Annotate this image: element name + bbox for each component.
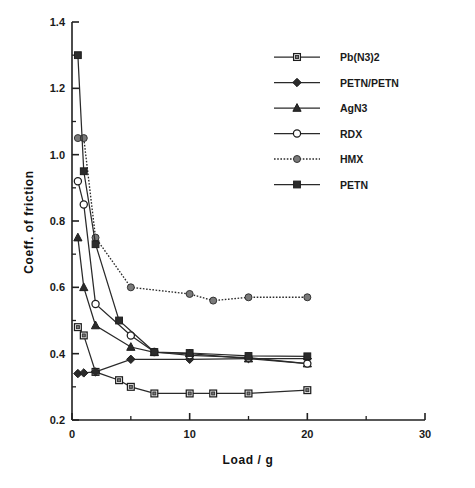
marker-open-square-core	[118, 379, 121, 382]
marker-filled-square	[116, 317, 123, 324]
marker-filled-circle	[294, 156, 301, 163]
x-tick-label: 20	[301, 428, 313, 440]
marker-filled-triangle	[91, 321, 99, 329]
y-tick-label: 1.4	[50, 16, 66, 28]
legend-entry-pb-n3-2[interactable]: Pb(N3)2	[274, 51, 380, 63]
x-tick-label: 10	[184, 428, 196, 440]
marker-open-circle	[80, 201, 87, 208]
marker-open-square-core	[212, 392, 215, 395]
marker-open-square-core	[129, 385, 132, 388]
series-line-petn	[78, 55, 307, 356]
marker-open-square-core	[76, 326, 79, 329]
marker-filled-circle	[186, 290, 193, 297]
x-tick-label: 0	[69, 428, 75, 440]
y-tick-label: 1.2	[50, 82, 65, 94]
marker-filled-circle	[210, 297, 217, 304]
marker-filled-diamond	[80, 369, 88, 377]
marker-open-square-core	[247, 392, 250, 395]
legend-label: Pb(N3)2	[340, 51, 380, 63]
legend-label: PETN	[340, 179, 368, 191]
y-tick-label: 0.6	[50, 281, 65, 293]
marker-filled-diamond	[127, 355, 135, 363]
marker-filled-circle	[245, 294, 252, 301]
x-axis-title: Load / g	[223, 453, 274, 467]
marker-filled-square	[304, 353, 311, 360]
y-axis-title: Coeff. of friction	[22, 170, 36, 273]
chart-legend: Pb(N3)2PETN/PETNAgN3RDXHMXPETN	[274, 51, 399, 191]
marker-open-circle	[92, 300, 99, 307]
legend-entry-petn-petn[interactable]: PETN/PETN	[274, 77, 399, 89]
marker-open-square-core	[296, 56, 299, 59]
marker-filled-triangle	[127, 343, 135, 351]
friction-vs-load-line-chart: 0.20.40.60.81.01.21.40102030 Load / g Co…	[0, 0, 475, 488]
marker-filled-triangle	[74, 233, 82, 241]
marker-filled-circle	[304, 294, 311, 301]
marker-filled-square	[80, 168, 87, 175]
legend-label: PETN/PETN	[340, 77, 399, 89]
legend-label: RDX	[340, 128, 362, 140]
y-tick-label: 0.8	[50, 215, 65, 227]
y-tick-label: 1.0	[50, 149, 65, 161]
y-tick-label: 0.4	[50, 348, 66, 360]
marker-filled-circle	[127, 284, 134, 291]
marker-open-square-core	[153, 392, 156, 395]
marker-open-circle	[304, 360, 311, 367]
y-tick-label: 0.2	[50, 414, 65, 426]
marker-filled-square	[294, 181, 301, 188]
marker-filled-square	[74, 52, 81, 59]
legend-entry-hmx[interactable]: HMX	[274, 153, 363, 165]
legend-entry-rdx[interactable]: RDX	[274, 128, 362, 140]
x-tick-label: 30	[419, 428, 431, 440]
legend-label: HMX	[340, 153, 363, 165]
series-petn	[74, 52, 310, 360]
marker-open-square-core	[82, 334, 85, 337]
marker-filled-triangle	[80, 283, 88, 291]
series-rdx	[74, 178, 311, 368]
marker-filled-square	[151, 349, 158, 356]
marker-open-square-core	[306, 389, 309, 392]
marker-filled-diamond	[293, 78, 301, 86]
legend-entry-petn[interactable]: PETN	[274, 179, 368, 191]
legend-entry-agn3[interactable]: AgN3	[274, 102, 368, 114]
legend-label: AgN3	[340, 102, 368, 114]
series-agn3	[74, 233, 312, 367]
chart-figure: 0.20.40.60.81.01.21.40102030 Load / g Co…	[0, 0, 475, 488]
marker-filled-square	[245, 353, 252, 360]
marker-filled-square	[92, 241, 99, 248]
marker-open-square-core	[188, 392, 191, 395]
marker-filled-circle	[92, 234, 99, 241]
series-line-hmx	[78, 138, 307, 301]
marker-open-circle	[74, 178, 81, 185]
series-hmx	[74, 135, 310, 305]
marker-filled-square	[186, 350, 193, 357]
marker-filled-circle	[80, 135, 87, 142]
marker-open-circle	[293, 130, 300, 137]
data-series	[74, 52, 312, 397]
